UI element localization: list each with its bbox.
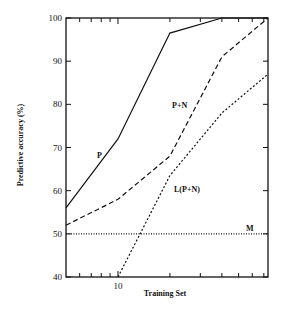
plot-axes: 40506070809010010 <box>49 13 269 291</box>
plot-series <box>66 18 268 277</box>
y-tick-label: 70 <box>53 143 63 153</box>
y-tick-label: 100 <box>49 13 63 23</box>
series-labels: PP+NL(P+N)M <box>97 101 254 233</box>
series-label: P <box>97 151 102 160</box>
y-tick-label: 40 <box>53 272 63 282</box>
y-tick-label: 80 <box>53 99 63 109</box>
line-chart: 40506070809010010 PP+NL(P+N)M Training S… <box>0 0 281 310</box>
series-label: M <box>246 224 254 233</box>
series-p-n <box>66 18 268 225</box>
x-tick-label: 10 <box>113 281 123 291</box>
series-l-p-n <box>118 74 268 277</box>
plot-frame <box>66 18 268 277</box>
series-p <box>66 18 268 208</box>
series-label: L(P+N) <box>174 185 200 194</box>
series-label: P+N <box>172 101 187 110</box>
y-tick-label: 50 <box>53 229 63 239</box>
y-tick-label: 90 <box>53 56 63 66</box>
y-axis-title: Predictive accuracy (%) <box>16 103 25 186</box>
x-axis-title: Training Set <box>144 289 187 298</box>
y-tick-label: 60 <box>53 186 63 196</box>
